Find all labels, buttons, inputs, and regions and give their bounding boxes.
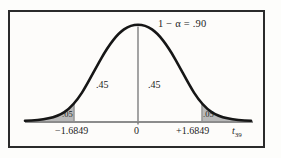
axis-variable-subscript: 39 bbox=[235, 131, 242, 139]
t-distribution-figure: 1 − α = .90 .45 .45 .05 .05 −1.6849 0 +1… bbox=[0, 0, 281, 158]
area-label-right: .45 bbox=[148, 80, 161, 90]
tick-label-positive: +1.6849 bbox=[176, 126, 209, 136]
axis-variable-label: t39 bbox=[232, 126, 242, 139]
tail-area-label-right: .05 bbox=[203, 110, 214, 119]
tail-area-label-left: .05 bbox=[62, 110, 73, 119]
area-label-left: .45 bbox=[96, 80, 109, 90]
tick-label-zero: 0 bbox=[134, 126, 139, 136]
tick-label-negative: −1.6849 bbox=[55, 126, 88, 136]
confidence-level-label: 1 − α = .90 bbox=[158, 19, 206, 30]
